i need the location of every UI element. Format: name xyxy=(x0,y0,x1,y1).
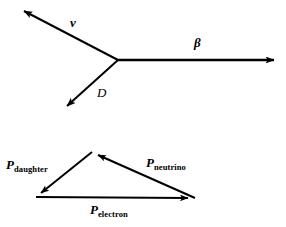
p-neutrino-label: Pneutrino xyxy=(146,156,186,169)
p-daughter-vector-arrow xyxy=(41,152,92,193)
figure-canvas: ν β D Pdaughter Pneutrino Pelectron xyxy=(0,0,286,227)
p-electron-vector-arrow xyxy=(36,197,188,198)
p-daughter-subscript: daughter xyxy=(14,164,48,174)
neutrino-vector-label: ν xyxy=(70,16,76,29)
p-electron-symbol: P xyxy=(90,202,98,217)
beta-vector-label: β xyxy=(194,36,201,49)
p-neutrino-subscript: neutrino xyxy=(154,162,186,172)
vector-diagram-svg xyxy=(0,0,286,227)
p-daughter-label: Pdaughter xyxy=(6,158,48,171)
p-neutrino-symbol: P xyxy=(146,155,154,170)
p-electron-subscript: electron xyxy=(98,209,128,219)
daughter-vector-label: D xyxy=(97,86,106,99)
upper-decay-diagram xyxy=(24,11,274,106)
p-daughter-symbol: P xyxy=(6,157,14,172)
daughter-vector-arrow xyxy=(67,60,118,106)
p-electron-label: Pelectron xyxy=(90,203,128,216)
